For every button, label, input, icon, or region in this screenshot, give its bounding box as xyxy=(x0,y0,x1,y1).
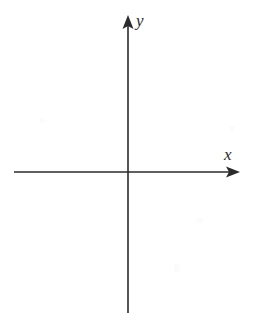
coordinate-plane-figure: x y xyxy=(0,0,254,327)
x-axis-label: x xyxy=(224,146,232,163)
axes-drawing xyxy=(0,0,254,327)
y-axis-label: y xyxy=(136,12,144,29)
